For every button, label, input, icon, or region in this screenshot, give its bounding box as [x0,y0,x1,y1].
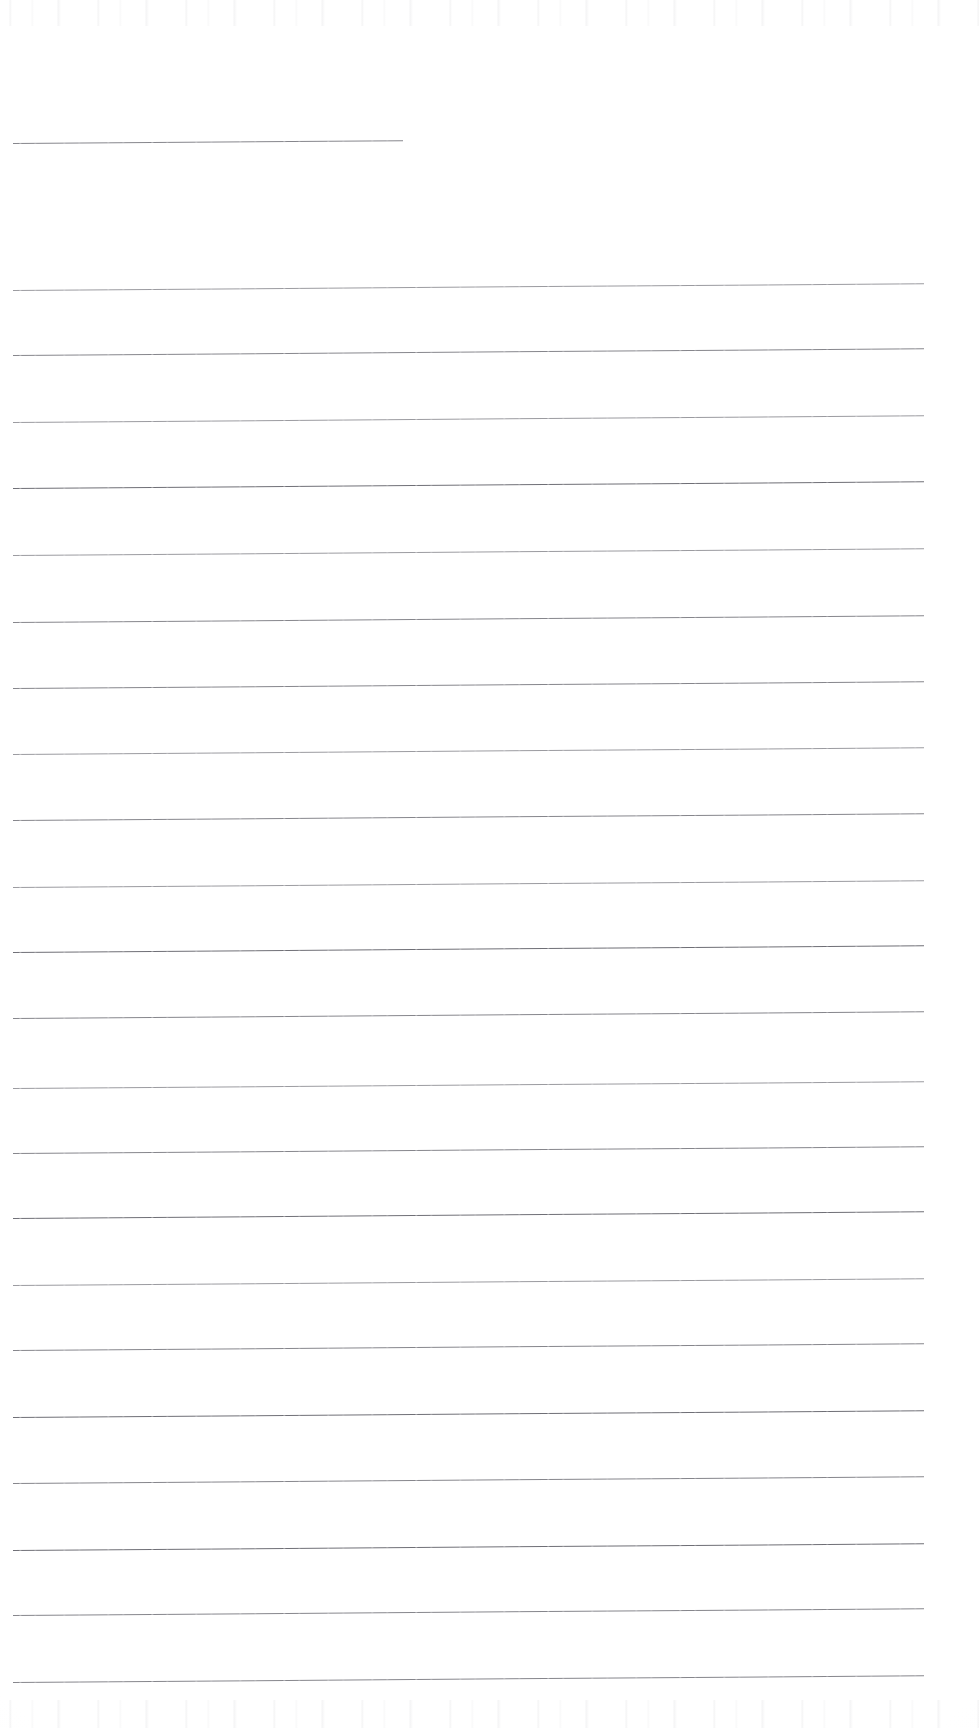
ruled-line [13,1007,924,1023]
ruled-line [13,941,924,957]
ruled-line [13,1406,924,1422]
scan-edge-artifact-top [0,0,979,26]
ruled-line-stroke [13,1278,924,1286]
ruled-line [13,279,924,295]
ruled-line-stroke [13,1410,924,1418]
ruled-line [13,611,924,627]
ruled-line [13,876,924,892]
ruled-line [13,1142,924,1158]
ruled-line-stroke [13,140,403,144]
ruled-line-stroke [13,1476,924,1484]
ruled-line [13,544,924,560]
ruled-line-stroke [13,681,924,689]
ruled-line-stroke [13,481,924,489]
ruled-line-stroke [13,348,924,356]
ruled-line-stroke [13,1011,924,1019]
ruled-line-stroke [13,1543,924,1551]
ruled-line [13,809,924,825]
ruled-line-stroke [13,415,924,423]
paper-texture [0,0,979,1728]
ruled-line [13,677,924,693]
ruled-line-stroke [13,1081,924,1089]
ruled-line [13,1604,924,1620]
ruled-line-stroke [13,1608,924,1616]
ruled-line [13,1077,924,1093]
ruled-line-short [13,136,403,148]
ruled-line [13,344,924,360]
ruled-line [13,1671,924,1687]
ruled-line [13,1472,924,1488]
ruled-line [13,1539,924,1555]
ruled-line [13,743,924,759]
ruled-line-stroke [13,1343,924,1351]
ruled-line-stroke [13,1146,924,1154]
ruled-line [13,1274,924,1290]
ruled-line [13,1207,924,1223]
ruled-line-stroke [13,747,924,755]
ruled-line-stroke [13,945,924,953]
ruled-line [13,411,924,427]
ruled-line-stroke [13,615,924,623]
scanned-page [0,0,979,1728]
ruled-line-stroke [13,1211,924,1219]
ruled-line [13,477,924,493]
ruled-line-stroke [13,548,924,556]
scan-edge-artifact-bottom [0,1700,979,1728]
ruled-line-stroke [13,283,924,291]
ruled-line-stroke [13,813,924,821]
ruled-line-stroke [13,880,924,888]
ruled-line-stroke [13,1675,924,1683]
ruled-line [13,1339,924,1355]
